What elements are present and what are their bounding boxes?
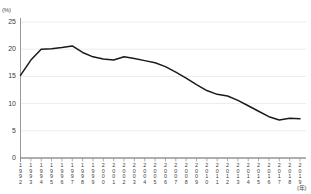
x-axis-ticks bbox=[21, 158, 301, 162]
gridlines bbox=[21, 22, 307, 158]
data-series-line bbox=[21, 46, 301, 120]
line-chart: (%) (年) 0510152025 199219931994199519961… bbox=[0, 0, 311, 194]
plot-area bbox=[0, 0, 311, 194]
